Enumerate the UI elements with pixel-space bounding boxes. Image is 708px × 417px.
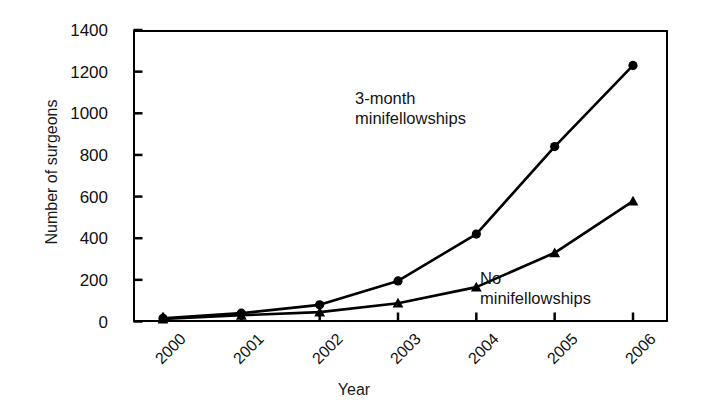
chart-figure: Number of surgeons 1400 1200 1000 800 60… xyxy=(0,0,708,417)
annotation-no-minifellowships: No minifellowships xyxy=(480,268,591,308)
chart-canvas xyxy=(0,0,708,417)
y-axis-ticks xyxy=(134,30,143,322)
annotation-3-month-minifellowships: 3-month minifellowships xyxy=(355,88,466,128)
x-axis-title: Year xyxy=(0,381,708,399)
